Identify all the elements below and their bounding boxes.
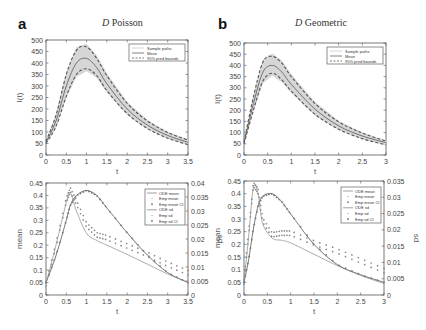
x-tick-label: 3.5 — [183, 158, 193, 165]
y-tick-label: 0.35 — [29, 204, 43, 211]
y-right-tick-label: 0.035 — [387, 178, 405, 185]
legend-entry: Emp sd — [159, 213, 173, 218]
legend-entry: Emp sd CI — [355, 217, 374, 222]
emp-sd-ci-marker — [248, 230, 250, 232]
emp-sd-ci-marker — [263, 219, 265, 221]
emp-sd-ci-marker — [91, 231, 93, 233]
x-tick-label: 0.5 — [61, 298, 71, 305]
emp-mean-ci-marker — [332, 260, 334, 262]
y-tick-label: 0 — [39, 292, 43, 299]
y-tick-label: 0.45 — [29, 180, 43, 187]
chart-b-bottom: 00.511.522.5300.050.10.150.20.250.30.350… — [213, 178, 421, 317]
emp-mean-ci-marker — [293, 218, 295, 220]
emp-mean-ci-marker — [351, 270, 353, 272]
y-tick-label: 150 — [31, 117, 43, 124]
emp-sd-ci-marker — [281, 234, 283, 236]
emp-mean-ci-marker — [105, 205, 107, 207]
emp-sd-ci-marker — [259, 201, 261, 203]
emp-sd-ci-marker — [82, 219, 84, 221]
emp-mean-ci-marker — [383, 281, 385, 283]
x-axis-label: t — [116, 307, 119, 316]
emp-mean-ci-marker — [85, 190, 87, 192]
emp-mean-ci-marker — [96, 195, 98, 197]
emp-sd-ci-marker — [91, 227, 93, 229]
y-tick-label: 0.4 — [33, 192, 43, 199]
emp-sd-ci-marker — [286, 230, 288, 232]
y-right-tick-label: 0.02 — [191, 236, 205, 243]
emp-sd-ci-marker — [94, 234, 96, 236]
legend-entry: 95% pred bounds — [345, 59, 376, 64]
emp-mean-ci-marker — [165, 270, 167, 272]
emp-mean-ci-marker — [281, 201, 283, 203]
emp-mean-ci-marker — [243, 281, 245, 283]
emp-mean-ci-marker — [370, 277, 372, 279]
emp-sd-ci-marker — [99, 233, 101, 235]
emp-sd-ci-marker — [137, 247, 139, 249]
y-axis-label: I(t) — [15, 92, 24, 102]
emp-sd-ci-marker — [255, 184, 257, 186]
x-tick-label: 2 — [335, 298, 339, 305]
emp-sd-ci-marker — [71, 191, 73, 193]
emp-sd-ci-marker — [247, 239, 249, 241]
y-tick-label: 50 — [233, 140, 241, 147]
emp-sd-ci-marker — [257, 188, 259, 190]
emp-sd-ci-marker — [338, 249, 340, 251]
emp-mean-ci-marker — [263, 195, 265, 197]
y-tick-label: 0.15 — [227, 254, 241, 261]
emp-sd-ci-marker — [276, 235, 278, 237]
emp-sd-ci-marker — [284, 230, 286, 232]
emp-mean-ci-marker — [278, 199, 280, 201]
emp-sd-ci-marker — [276, 231, 278, 233]
emp-sd-ci-marker — [165, 265, 167, 267]
emp-sd-ci-marker — [115, 243, 117, 245]
y-right-tick-label: 0.03 — [191, 208, 205, 215]
y-right-tick-label: 0.005 — [191, 278, 209, 285]
emp-mean-ci-marker — [75, 196, 77, 198]
x-tick-label: 0.5 — [262, 298, 272, 305]
emp-mean-ci-marker — [182, 279, 184, 281]
y-tick-label: 0 — [39, 152, 43, 159]
emp-mean-ci-marker — [67, 212, 69, 214]
emp-sd-ci-marker — [56, 237, 58, 239]
y-tick-label: 350 — [229, 73, 241, 80]
emp-sd-ci-marker — [383, 272, 385, 274]
emp-sd-ci-marker — [300, 234, 302, 236]
emp-sd-ci-marker — [273, 231, 275, 233]
emp-sd-ci-marker — [115, 238, 117, 240]
emp-sd-ci-marker — [102, 233, 104, 235]
chart-a-bottom: 00.511.522.533.500.050.10.150.20.250.30.… — [15, 180, 225, 317]
y-right-tick-label: 0.035 — [191, 194, 209, 201]
y-tick-label: 0.3 — [231, 216, 241, 223]
emp-sd-ci-marker — [313, 240, 315, 242]
emp-mean-ci-marker — [261, 197, 263, 199]
emp-mean-ci-marker — [250, 247, 252, 249]
emp-sd-ci-marker — [54, 253, 56, 255]
emp-mean-ci-marker — [109, 211, 111, 213]
x-tick-label: 0 — [242, 298, 246, 305]
emp-sd-ci-marker — [271, 231, 273, 233]
emp-mean-ci-marker — [252, 231, 254, 233]
emp-sd-ci-marker — [65, 205, 67, 207]
x-axis-label: t — [116, 167, 119, 176]
y-right-tick-label: 0 — [387, 292, 391, 299]
emp-mean-ci-marker — [176, 276, 178, 278]
emp-sd-ci-marker — [260, 205, 262, 207]
emp-mean-ci-marker — [248, 256, 250, 258]
emp-mean-ci-marker — [271, 193, 273, 195]
emp-mean-ci-marker — [259, 202, 261, 204]
emp-sd-ci-marker — [243, 279, 245, 281]
y-tick-label: 400 — [31, 60, 43, 67]
emp-sd-ci-marker — [250, 212, 252, 214]
emp-mean-ci-marker — [115, 218, 117, 220]
x-tick-label: 3 — [384, 158, 388, 165]
emp-sd-ci-marker — [182, 272, 184, 274]
emp-sd-ci-marker — [85, 221, 87, 223]
emp-mean-ci-marker — [62, 232, 64, 234]
emp-mean-ci-marker — [247, 263, 249, 265]
emp-sd-ci-marker — [66, 199, 68, 201]
x-tick-label: 3 — [166, 298, 170, 305]
y-tick-label: 0.1 — [33, 267, 43, 274]
emp-sd-ci-marker — [370, 262, 372, 264]
emp-sd-ci-marker — [293, 236, 295, 238]
emp-sd-ci-marker — [271, 235, 273, 237]
